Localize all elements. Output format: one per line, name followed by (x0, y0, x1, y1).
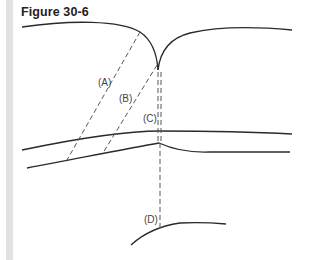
bottom-arc (131, 223, 226, 245)
label-b: (B) (119, 93, 132, 104)
lower-layer-line (27, 143, 290, 168)
label-a: (A) (98, 77, 111, 88)
middle-layer-line (22, 131, 292, 150)
upper-surface-left (22, 22, 158, 70)
label-d: (D) (144, 214, 158, 225)
upper-surface-right (158, 28, 292, 70)
diagram: (A) (B) (C) (D) (0, 0, 310, 260)
label-c: (C) (143, 113, 157, 124)
